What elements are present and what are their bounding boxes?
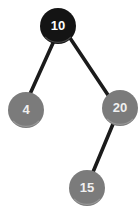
- edge-root-to-right: [70, 38, 110, 98]
- tree-node-15-label: 15: [80, 180, 94, 195]
- edge-root-to-left: [30, 43, 53, 94]
- tree-node-20[interactable]: 20: [102, 90, 138, 126]
- tree-node-15[interactable]: 15: [69, 170, 105, 206]
- tree-node-4-label: 4: [22, 102, 30, 117]
- edge-right-to-rightleft: [93, 124, 113, 172]
- tree-node-10[interactable]: 10: [40, 8, 76, 44]
- tree-canvas: 10 4 20 15: [0, 0, 140, 218]
- tree-node-10-label: 10: [51, 18, 65, 33]
- tree-node-20-label: 20: [113, 100, 127, 115]
- tree-node-4[interactable]: 4: [8, 92, 44, 128]
- binary-tree-diagram: 10 4 20 15: [0, 0, 140, 218]
